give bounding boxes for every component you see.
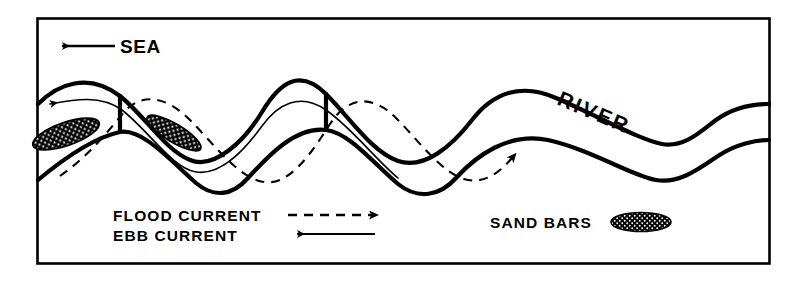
legend-ebb-current-label: EBB CURRENT (113, 227, 238, 244)
tidal-river-meander-diagram: SEA RIVER FLOOD CURRENT EBB CURRENT SAND… (0, 0, 804, 281)
legend-sand-bars-label: SAND BARS (490, 214, 592, 231)
sand-bar-legend-icon (611, 213, 671, 232)
legend-flood-current-label: FLOOD CURRENT (113, 207, 262, 224)
legend-sand-bars: SAND BARS (490, 213, 671, 232)
sea-label: SEA (120, 36, 161, 57)
